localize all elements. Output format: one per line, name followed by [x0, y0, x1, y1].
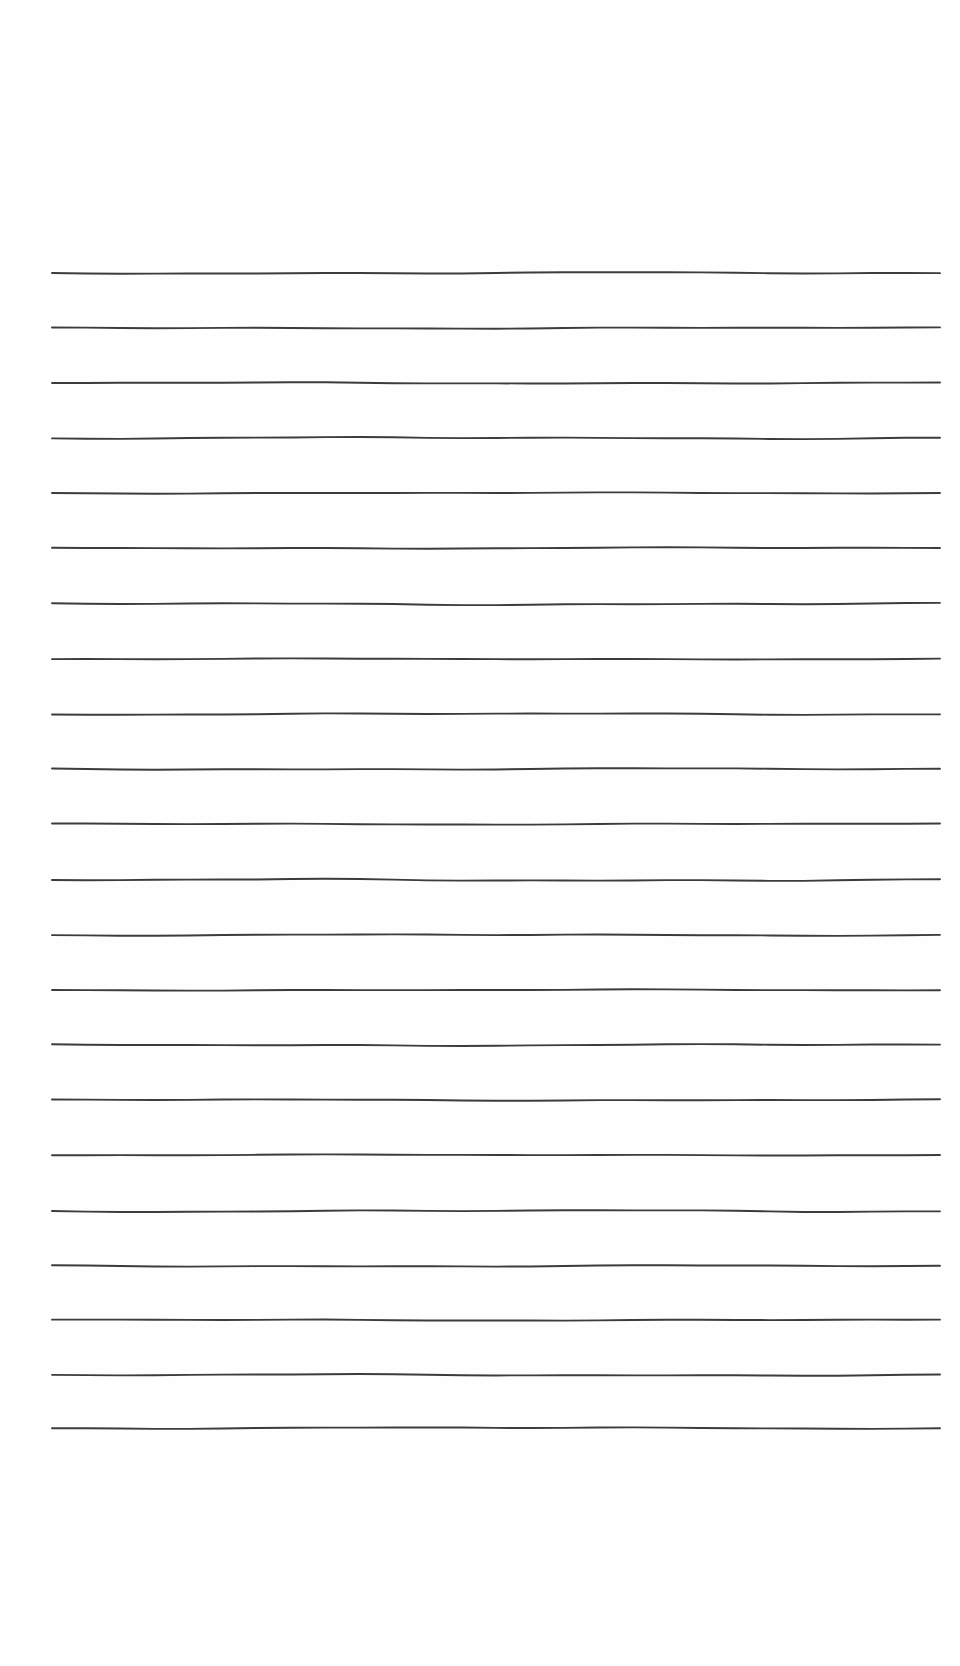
- top-margin-area: [0, 0, 960, 260]
- writing-area-label: [52, 260, 53, 261]
- paper-sheet: [0, 0, 960, 1666]
- left-margin-label: [0, 260, 1, 261]
- bottom-margin-label: [0, 1455, 1, 1456]
- page-root: [0, 0, 960, 1666]
- left-margin-area: [0, 260, 52, 1455]
- writing-area[interactable]: [52, 260, 941, 1455]
- bottom-margin-area: [0, 1455, 960, 1666]
- right-margin-area: [941, 260, 960, 1455]
- right-margin-label: [941, 260, 942, 261]
- top-margin-label: [0, 0, 1, 1]
